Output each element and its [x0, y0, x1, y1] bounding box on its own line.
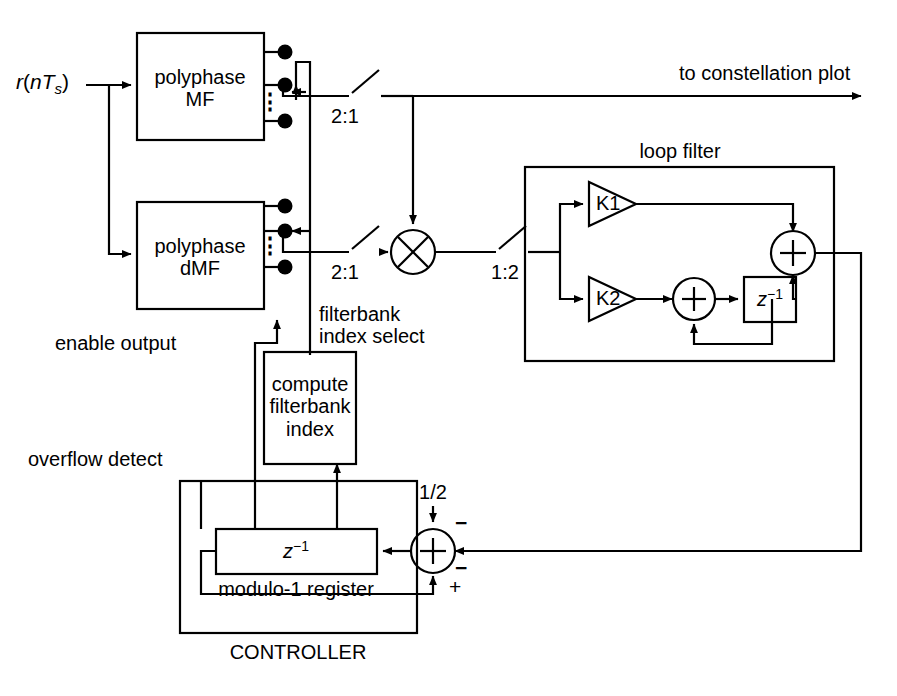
dmf-tap-dot-1 [278, 199, 293, 214]
to-constellation-plot-label: to constellation plot [679, 62, 850, 84]
dmf-vertical-dots-icon: ⋮ [259, 234, 281, 259]
adder-sign-plus-bottom: + [449, 575, 461, 599]
switch-blade-1to2 [499, 226, 526, 249]
loop-delay-label: z−1 [757, 287, 783, 310]
wire-loop-filter-out-to-controller [455, 253, 861, 551]
wire-split-to-k2 [560, 252, 583, 299]
block-diagram-canvas: r(nTs) polyphaseMF polyphasedMF ⋮ ⋮ 2:1 … [0, 0, 897, 696]
filterbank-index-select-label: filterbankindex select [319, 303, 425, 348]
overflow-detect-label: overflow detect [28, 448, 163, 470]
mf-vertical-dots-icon: ⋮ [259, 90, 281, 115]
controller-label: CONTROLLER [230, 641, 367, 663]
downsample-top-label: 2:1 [331, 105, 359, 127]
switch-blade-top-2to1 [352, 70, 379, 93]
downsample-bottom-label: 2:1 [331, 261, 359, 283]
switch-blade-bottom-2to1 [352, 226, 379, 249]
wire-split-to-k1 [560, 204, 583, 252]
loop-filter-label: loop filter [639, 140, 720, 162]
wire-k1-to-summer [636, 204, 793, 232]
gain-k2-label: K2 [596, 287, 620, 309]
enable-output-label: enable output [55, 332, 176, 354]
wire-dmf-to-switch-bottom-left [283, 231, 349, 252]
input-signal-label: r(nTs) [16, 70, 69, 98]
wire-input-branch-to-dmf [109, 85, 131, 254]
mf-tap-dot-1 [278, 45, 293, 60]
loop-filter-box [525, 167, 834, 361]
one-half-label: 1/2 [419, 481, 447, 503]
polyphase-mf-label: polyphaseMF [154, 66, 245, 111]
modulo-register-label: modulo-1 register [218, 578, 374, 600]
adder-sign-minus-top: − [455, 511, 467, 535]
controller-delay-label: z−1 [283, 539, 309, 562]
dmf-tap-dot-3 [278, 260, 293, 275]
upsample-label: 1:2 [491, 261, 519, 283]
mf-tap-dot-3 [278, 114, 293, 129]
wire-index-to-mf-stub [296, 62, 310, 85]
wire-mf-to-switch-top-left [283, 85, 349, 96]
compute-filterbank-index-label: computefilterbankindex [269, 373, 350, 440]
gain-k1-label: K1 [596, 192, 620, 214]
polyphase-dmf-label: polyphasedMF [154, 235, 245, 280]
